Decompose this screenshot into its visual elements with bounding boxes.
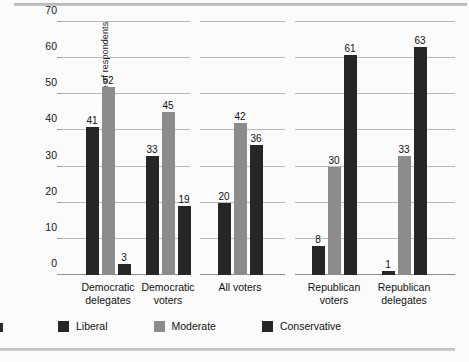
bar-value-label: 63	[414, 35, 425, 46]
top-rule	[14, 3, 467, 6]
bar-group: 41523Democraticdelegates	[86, 22, 131, 275]
category-label: Democraticvoters	[141, 281, 194, 306]
legend-item[interactable]: Liberal	[58, 320, 108, 332]
bar: 19	[178, 206, 191, 275]
bar: 63	[414, 47, 427, 275]
y-tick-label: 0	[51, 257, 57, 269]
bar: 61	[344, 55, 357, 275]
category-label-line2: voters	[141, 294, 194, 307]
category-label-line2: delegates	[81, 294, 134, 307]
bar: 33	[146, 156, 159, 275]
bar-value-label: 20	[218, 191, 229, 202]
y-tick-label: 40	[45, 112, 57, 124]
bottom-rule	[0, 348, 455, 351]
bar: 30	[328, 167, 341, 275]
bar-group: 334519Democraticvoters	[146, 22, 191, 275]
bar-value-label: 61	[344, 43, 355, 54]
bar: 8	[312, 246, 325, 275]
chart-figure: Percentage of respondents 01020304050607…	[0, 0, 469, 362]
bar-value-label: 8	[315, 234, 321, 245]
bar: 42	[234, 123, 247, 275]
bar: 52	[102, 87, 115, 275]
category-label-line1: Democratic	[141, 281, 194, 294]
category-label-line2: voters	[308, 294, 361, 307]
category-label: Democraticdelegates	[81, 281, 134, 306]
bar: 41	[86, 127, 99, 275]
bar-value-label: 52	[102, 75, 113, 86]
legend-label: Moderate	[172, 320, 216, 332]
bar-value-label: 33	[146, 144, 157, 155]
category-label-line1: All voters	[218, 281, 261, 294]
bar-value-label: 1	[385, 259, 391, 270]
bar-value-label: 19	[178, 194, 189, 205]
category-label: All voters	[218, 281, 261, 294]
category-label-line1: Democratic	[81, 281, 134, 294]
category-label: Republicandelegates	[378, 281, 431, 306]
category-label-line2: delegates	[378, 294, 431, 307]
y-tick-label: 20	[45, 185, 57, 197]
bar: 45	[162, 112, 175, 275]
bar-value-label: 36	[250, 133, 261, 144]
plot-area: Percentage of respondents 01020304050607…	[62, 22, 455, 275]
category-label-line1: Republican	[378, 281, 431, 294]
bar-value-label: 41	[86, 115, 97, 126]
legend-item[interactable]: Moderate	[154, 320, 216, 332]
y-tick-label: 50	[45, 76, 57, 88]
bar-group: 83061Republicanvoters	[312, 22, 357, 275]
bar-value-label: 3	[121, 252, 127, 263]
category-label-line1: Republican	[308, 281, 361, 294]
bar-group: 13363Republicandelegates	[382, 22, 427, 275]
y-tick-label: 70	[45, 4, 57, 16]
legend-swatch-icon	[262, 321, 273, 332]
bar-value-label: 42	[234, 111, 245, 122]
legend-item[interactable]: Conservative	[262, 320, 341, 332]
chart-legend: LiberalModerateConservative	[58, 320, 387, 332]
bar-group: 204236All voters	[218, 22, 263, 275]
bar-value-label: 45	[162, 100, 173, 111]
legend-label: Liberal	[76, 320, 108, 332]
bar: 33	[398, 156, 411, 275]
bar: 3	[118, 264, 131, 275]
left-edge-mark	[0, 323, 3, 332]
bar: 1	[382, 271, 395, 275]
bar: 36	[250, 145, 263, 275]
bar-value-label: 30	[328, 155, 339, 166]
bar-value-label: 33	[398, 144, 409, 155]
bar: 20	[218, 203, 231, 275]
legend-label: Conservative	[280, 320, 341, 332]
y-tick-label: 30	[45, 149, 57, 161]
category-label: Republicanvoters	[308, 281, 361, 306]
legend-swatch-icon	[154, 321, 165, 332]
y-tick-label: 10	[45, 221, 57, 233]
y-tick-label: 60	[45, 40, 57, 52]
legend-swatch-icon	[58, 321, 69, 332]
